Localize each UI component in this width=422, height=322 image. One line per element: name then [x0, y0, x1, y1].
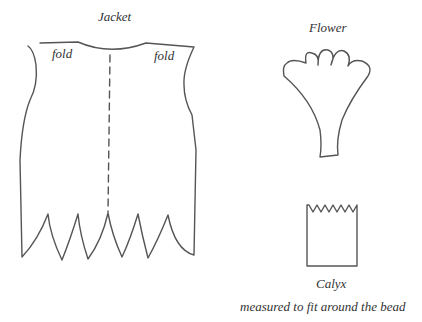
- flower-piece: [283, 50, 370, 157]
- calyx-outline: [307, 205, 357, 266]
- flower-outline: [283, 50, 370, 157]
- calyx-piece: [307, 205, 357, 266]
- jacket-outline: [20, 42, 196, 260]
- jacket-piece: [20, 42, 196, 260]
- pattern-drawing: [0, 0, 422, 322]
- center-fold-line: [108, 55, 110, 212]
